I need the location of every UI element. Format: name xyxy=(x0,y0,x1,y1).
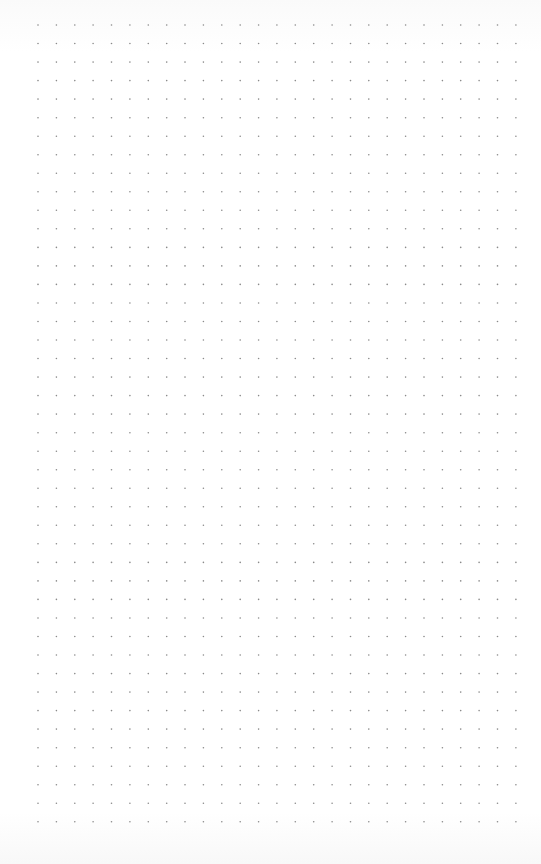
grid-dot xyxy=(386,154,388,156)
grid-dot xyxy=(239,154,241,156)
grid-dot xyxy=(111,358,113,360)
grid-dot xyxy=(258,339,260,341)
grid-dot xyxy=(239,673,241,675)
grid-dot xyxy=(460,432,462,434)
grid-dot xyxy=(239,210,241,212)
grid-dot xyxy=(331,302,333,304)
grid-dot xyxy=(405,43,407,45)
grid-dot xyxy=(331,191,333,193)
grid-dot xyxy=(478,654,480,656)
grid-dot xyxy=(368,728,370,730)
grid-dot xyxy=(442,580,444,582)
grid-dot xyxy=(313,673,315,675)
grid-dot xyxy=(92,339,94,341)
grid-dot xyxy=(92,135,94,137)
grid-dot xyxy=(203,265,205,267)
grid-dot xyxy=(92,747,94,749)
grid-dot xyxy=(258,617,260,619)
grid-dot xyxy=(405,488,407,490)
grid-dot xyxy=(368,358,370,360)
grid-dot xyxy=(92,395,94,397)
grid-dot xyxy=(239,358,241,360)
grid-dot xyxy=(442,469,444,471)
grid-dot xyxy=(184,691,186,693)
grid-dot xyxy=(350,247,352,249)
grid-dot xyxy=(368,302,370,304)
grid-dot xyxy=(148,562,150,564)
grid-dot xyxy=(350,432,352,434)
grid-dot xyxy=(276,432,278,434)
grid-dot xyxy=(56,43,58,45)
grid-dot xyxy=(313,469,315,471)
grid-dot xyxy=(166,543,168,545)
grid-dot xyxy=(442,747,444,749)
grid-dot xyxy=(386,395,388,397)
grid-dot xyxy=(148,654,150,656)
grid-dot xyxy=(148,358,150,360)
grid-dot xyxy=(442,24,444,26)
grid-dot xyxy=(515,488,517,490)
grid-dot xyxy=(350,413,352,415)
grid-dot xyxy=(423,450,425,452)
grid-dot xyxy=(92,302,94,304)
grid-dot xyxy=(74,691,76,693)
grid-dot xyxy=(276,376,278,378)
grid-dot xyxy=(129,247,131,249)
grid-dot xyxy=(386,580,388,582)
grid-dot xyxy=(313,728,315,730)
grid-dot xyxy=(111,599,113,601)
grid-dot xyxy=(350,376,352,378)
grid-dot xyxy=(239,172,241,174)
grid-dot xyxy=(368,432,370,434)
grid-dot xyxy=(203,321,205,323)
grid-dot xyxy=(350,562,352,564)
grid-dot xyxy=(166,172,168,174)
grid-dot xyxy=(368,710,370,712)
grid-dot xyxy=(515,210,517,212)
grid-dot xyxy=(515,469,517,471)
grid-dot xyxy=(313,117,315,119)
grid-dot xyxy=(350,172,352,174)
grid-dot xyxy=(442,450,444,452)
grid-dot xyxy=(442,135,444,137)
grid-dot xyxy=(313,265,315,267)
grid-dot xyxy=(405,691,407,693)
grid-dot xyxy=(203,525,205,527)
grid-dot xyxy=(497,673,499,675)
grid-dot xyxy=(203,506,205,508)
grid-dot xyxy=(184,395,186,397)
grid-dot xyxy=(92,228,94,230)
grid-dot xyxy=(148,247,150,249)
grid-dot xyxy=(442,728,444,730)
grid-dot xyxy=(148,98,150,100)
grid-dot xyxy=(368,506,370,508)
grid-dot xyxy=(478,80,480,82)
grid-dot xyxy=(478,747,480,749)
grid-dot xyxy=(350,673,352,675)
grid-dot xyxy=(515,784,517,786)
grid-dot xyxy=(276,525,278,527)
grid-dot xyxy=(276,135,278,137)
grid-dot xyxy=(368,284,370,286)
grid-dot xyxy=(56,710,58,712)
grid-dot xyxy=(442,784,444,786)
grid-dot xyxy=(37,284,39,286)
grid-dot xyxy=(442,247,444,249)
grid-dot xyxy=(37,117,39,119)
grid-dot xyxy=(460,191,462,193)
grid-dot xyxy=(221,339,223,341)
grid-dot xyxy=(221,562,223,564)
grid-dot xyxy=(295,747,297,749)
grid-dot xyxy=(368,525,370,527)
grid-dot xyxy=(350,691,352,693)
grid-dot xyxy=(129,525,131,527)
grid-dot xyxy=(221,784,223,786)
grid-dot xyxy=(442,321,444,323)
grid-dot xyxy=(203,98,205,100)
grid-dot xyxy=(478,321,480,323)
grid-dot xyxy=(276,673,278,675)
grid-dot xyxy=(423,617,425,619)
grid-dot xyxy=(313,599,315,601)
grid-dot xyxy=(295,543,297,545)
grid-dot xyxy=(258,784,260,786)
